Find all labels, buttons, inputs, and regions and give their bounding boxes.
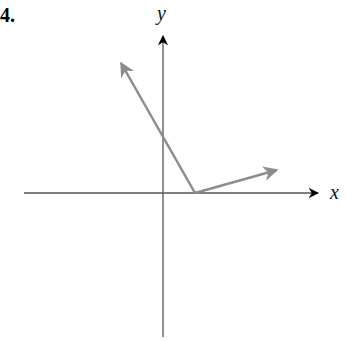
vector-up-left: [121, 63, 195, 193]
y-axis-label: y: [155, 2, 166, 25]
x-axis-label: x: [329, 181, 339, 203]
vector-up-right: [195, 170, 277, 193]
coordinate-diagram: x y: [0, 0, 351, 341]
